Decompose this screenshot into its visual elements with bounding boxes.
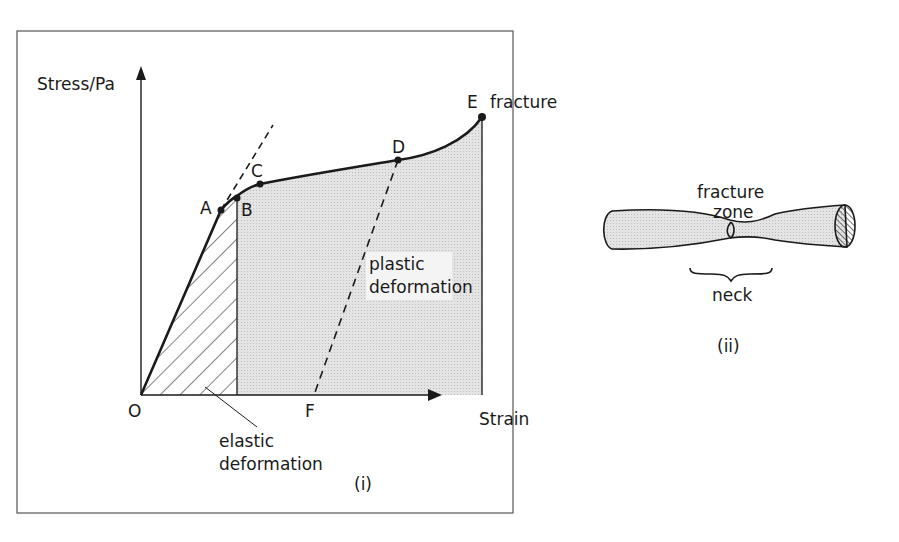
neck-label: neck [712, 285, 753, 305]
fracture-zone-label-line1: fracture [697, 182, 764, 202]
fracture-surface [835, 205, 855, 247]
fracture-zone-label-line2: zone [713, 202, 754, 222]
neck-brace-icon [690, 268, 772, 281]
figure-container [17, 31, 512, 513]
panel-ii-caption: (ii) [717, 336, 740, 356]
